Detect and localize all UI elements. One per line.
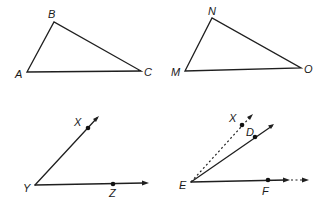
label-c: C bbox=[144, 66, 152, 78]
triangle-mno: N M O bbox=[171, 5, 313, 78]
triangle-abc-shape bbox=[27, 22, 141, 72]
label-y: Y bbox=[23, 182, 31, 194]
point-f bbox=[266, 178, 271, 183]
arrowhead-ef-extension-icon bbox=[302, 178, 309, 183]
geometry-figure: B A C N M O X Y Z X D E F bbox=[0, 0, 324, 207]
point-x2 bbox=[240, 123, 245, 128]
angle-def: X D E F bbox=[179, 112, 309, 197]
label-f: F bbox=[262, 185, 270, 197]
ray-ed bbox=[191, 126, 272, 182]
triangle-abc: B A C bbox=[14, 8, 152, 80]
ray-ef bbox=[191, 180, 286, 182]
point-x bbox=[86, 126, 91, 131]
label-x: X bbox=[73, 116, 82, 128]
label-d: D bbox=[246, 126, 254, 138]
arrowhead-ex-icon bbox=[247, 114, 253, 120]
label-b: B bbox=[48, 8, 55, 20]
label-n: N bbox=[208, 5, 216, 17]
label-m: M bbox=[171, 66, 181, 78]
label-e: E bbox=[179, 179, 187, 191]
triangle-mno-shape bbox=[185, 18, 301, 71]
angle-xyz: X Y Z bbox=[23, 116, 149, 199]
arrowhead-ef-icon bbox=[283, 178, 290, 183]
label-z: Z bbox=[108, 187, 117, 199]
label-x2: X bbox=[228, 112, 237, 124]
arrowhead-yz-icon bbox=[142, 181, 149, 186]
label-o: O bbox=[304, 63, 313, 75]
ray-yz bbox=[35, 183, 144, 185]
label-a: A bbox=[14, 68, 22, 80]
point-z bbox=[111, 182, 116, 187]
